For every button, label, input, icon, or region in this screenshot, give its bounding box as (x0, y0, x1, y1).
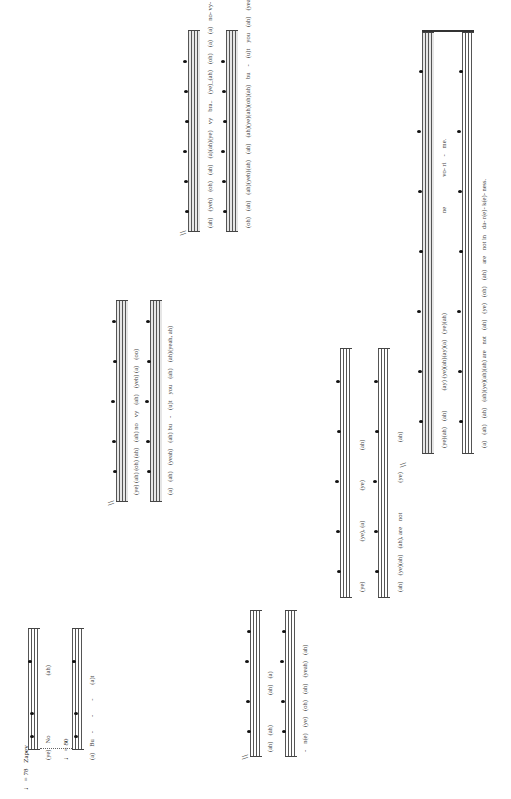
note (221, 60, 225, 63)
note (183, 60, 187, 63)
note (417, 130, 421, 133)
note (419, 420, 423, 423)
section-marker: \\ (398, 462, 408, 467)
note (282, 730, 286, 733)
staff-top (28, 628, 40, 750)
sheet-music-page: ♩ = 78 Zapev (ye)No(ah) ♩ = 80 (a)Bu---(… (0, 0, 511, 799)
staff-bottom (462, 32, 474, 454)
note (247, 730, 251, 733)
note (74, 712, 78, 715)
system-connector (40, 748, 72, 749)
note (280, 660, 284, 663)
note (245, 660, 249, 663)
staff-top (422, 32, 434, 454)
lyrics-bottom: (a)(ah)(yeah)(ah) bu-(u)tyou(ah)(ah)(yea… (166, 320, 173, 495)
lyrics-top: (ah)(yeh)(oh)(ah)(a)(ah)(ye)vybra..(ye)_… (206, 0, 213, 228)
note (30, 712, 34, 715)
tempo-marking-78: ♩ = 78 Zapev (22, 745, 30, 790)
lyrics-bottom: (ah)(ye)(ah)(ah), arenot(ye)(ah) (396, 426, 403, 592)
lyrics-top: (ye)(ye), (a)(ye)(ah) (358, 434, 365, 592)
note (222, 90, 226, 93)
note (28, 660, 32, 663)
tempo-value: ♩ = 78 (22, 769, 30, 790)
note (457, 130, 461, 133)
staff-top (188, 30, 200, 232)
section-marker: \\ (240, 754, 250, 759)
tempo-marking-80: ♩ = 80 (62, 739, 70, 760)
note (221, 150, 225, 153)
note (145, 400, 149, 403)
note (281, 700, 285, 703)
note (419, 70, 423, 73)
note (419, 250, 423, 253)
note (374, 530, 378, 533)
note (282, 630, 286, 633)
note (336, 530, 340, 533)
lyrics-bottom: (a)(ah)(ah)(ah)(ye)(ah)(ah) arenot(ah)(y… (480, 173, 487, 448)
staff-top (340, 348, 352, 598)
note (417, 310, 421, 313)
note (246, 700, 250, 703)
note (112, 320, 116, 323)
note (457, 310, 461, 313)
note (459, 70, 463, 73)
note (418, 370, 422, 373)
lyrics-bottom: -n(e)(ye)(oh)(ah)(yeah)(ah) (301, 639, 308, 753)
note (337, 430, 341, 433)
lyrics-top: (ah)(ah)(ah)(a) (266, 665, 273, 752)
note (185, 210, 189, 213)
staff-bottom (150, 300, 162, 502)
note (459, 420, 463, 423)
note (185, 120, 189, 123)
note (375, 570, 379, 573)
note (112, 440, 116, 443)
note (72, 660, 76, 663)
note (373, 480, 377, 483)
note (113, 470, 117, 473)
note (247, 630, 251, 633)
note (113, 360, 117, 363)
note (147, 360, 151, 363)
staff-top (250, 610, 262, 757)
note (223, 120, 227, 123)
note (459, 250, 463, 253)
note (374, 380, 378, 383)
note (183, 150, 187, 153)
note (337, 570, 341, 573)
note (336, 380, 340, 383)
lyrics-top: (ye)(ah)(ah)(ay) (ye)(ah)(ay)(a)(ye)(ah)… (440, 133, 447, 448)
note (223, 210, 227, 213)
note (146, 440, 150, 443)
lyrics-top: (ye) (ah) (oh) (ah)(ah) novy(ah)(yeh) (a… (132, 343, 139, 495)
lyrics-bottom: (a)Bu---(a)t (88, 670, 95, 760)
note (184, 90, 188, 93)
staff-bottom (72, 628, 84, 750)
staff-bottom (378, 348, 390, 598)
note (111, 400, 115, 403)
note (458, 190, 462, 193)
note (335, 480, 339, 483)
note (375, 430, 379, 433)
lyrics-top: (ye)No(ah) (44, 659, 51, 760)
note (222, 180, 226, 183)
section-marker: \\ (106, 500, 116, 505)
note (184, 180, 188, 183)
note (74, 735, 78, 738)
section-marker: \\ (178, 230, 188, 235)
final-barline (422, 30, 474, 32)
note (30, 735, 34, 738)
note (418, 190, 422, 193)
note (147, 470, 151, 473)
staff-bottom (285, 610, 297, 757)
lyrics-bottom: (oh)(ah)(ah)(yeh)(ah)(ah)(ah)(ye)(ah)(oh… (244, 0, 251, 228)
staff-bottom (226, 30, 238, 232)
note (146, 320, 150, 323)
note (458, 370, 462, 373)
staff-top (116, 300, 128, 502)
